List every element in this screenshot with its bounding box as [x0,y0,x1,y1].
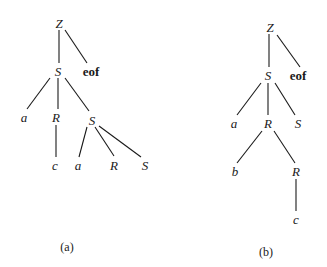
tree-a-edge [65,30,87,63]
tree-a-node-R2: R [110,159,118,172]
tree-b-node-Z: Z [266,21,273,34]
tree-a-node-a1: a [21,111,28,124]
tree-a-edge [27,78,50,109]
tree-b-node-R1: R [264,117,272,130]
tree-a-edge [95,127,114,156]
tree-b-edge [237,83,261,115]
tree-a-node-S1: S [55,65,62,78]
tree-b-node-R2: R [292,165,300,178]
tree-b-edge [277,35,300,67]
tree-a-edge [99,126,141,157]
tree-a-node-eof: eof [83,65,100,78]
tree-b-node-a1: a [231,117,238,130]
tree-b-node-S2: S [295,117,302,130]
tree-a-caption: (a) [60,241,73,253]
tree-a-node-c1: c [52,159,58,172]
tree-b-node-S1: S [265,69,272,82]
tree-a-node-S3: S [142,159,149,172]
tree-b-caption: (b) [259,246,273,258]
tree-b-node-eof: eof [290,69,307,82]
tree-b-edge [275,83,295,115]
tree-a-node-R1: R [52,111,60,124]
tree-a-node-Z: Z [55,17,62,30]
tree-b-edge [237,131,262,163]
tree-b-edge [274,131,295,163]
tree-edges [0,0,327,267]
tree-a-edge [79,127,87,157]
tree-b-node-b1: b [232,165,239,178]
tree-b-node-c1: c [293,213,299,226]
tree-a-node-S2: S [89,114,96,127]
tree-a-edge [65,78,89,111]
tree-a-node-a2: a [75,159,82,172]
